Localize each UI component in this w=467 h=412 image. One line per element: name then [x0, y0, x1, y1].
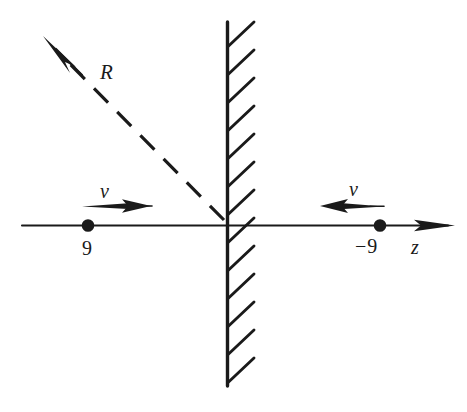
vector-R-label: R [100, 62, 113, 83]
z-axis-label: z [411, 237, 419, 257]
velocity-right-vector [320, 199, 384, 213]
diagram-canvas [0, 0, 467, 412]
vector-R-arrowhead-icon [43, 36, 76, 73]
wall-hatch-marks [228, 22, 255, 383]
hatched-wall-group [228, 22, 255, 386]
vector-R-group [43, 36, 224, 220]
charge-negative-label: −9 [355, 236, 378, 256]
velocity-left-shaft [82, 203, 128, 209]
charge-positive-dot [82, 219, 95, 232]
velocity-left-label: v [100, 181, 109, 201]
vector-R-dashed-line [62, 56, 224, 220]
velocity-left-vector [82, 199, 152, 213]
charge-negative-dot [374, 219, 387, 232]
charge-positive-label: 9 [82, 238, 92, 258]
velocity-right-label: v [349, 179, 358, 199]
physics-diagram-figure: R v v z 9 −9 [0, 0, 467, 412]
charge-negative-group [374, 219, 387, 232]
charge-positive-group [82, 219, 95, 232]
